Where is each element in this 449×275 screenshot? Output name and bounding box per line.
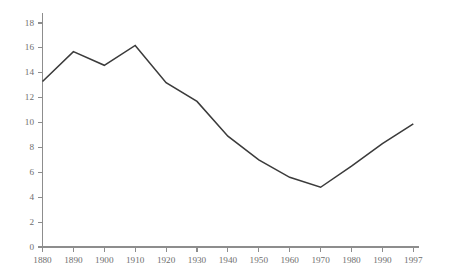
y-tick-label: 0: [29, 242, 34, 252]
y-tick-label: 2: [29, 217, 34, 227]
x-tick-label: 1900: [95, 255, 114, 265]
x-tick-label: 1990: [373, 255, 392, 265]
x-tick-label: 1970: [311, 255, 330, 265]
y-tick-label: 12: [25, 92, 35, 102]
x-tick-label: 1980: [342, 255, 361, 265]
x-tick-label: 1880: [33, 255, 52, 265]
x-axis-tick-labels: 1880189019001910192019301940195019601970…: [33, 255, 423, 265]
y-tick-label: 14: [25, 67, 35, 77]
data-series-line: [43, 45, 414, 187]
y-tick-label: 18: [25, 18, 35, 28]
y-axis-ticks: [38, 23, 43, 247]
line-chart: 024681012141618 188018901900191019201930…: [0, 0, 449, 275]
x-tick-label: 1950: [250, 255, 269, 265]
y-axis-tick-labels: 024681012141618: [25, 18, 35, 252]
x-tick-label: 1960: [281, 255, 300, 265]
y-tick-label: 6: [29, 167, 34, 177]
y-tick-label: 16: [25, 42, 35, 52]
data-series-group: [43, 45, 414, 187]
x-tick-label: 1930: [188, 255, 207, 265]
x-tick-label: 1940: [219, 255, 238, 265]
x-tick-label: 1910: [126, 255, 145, 265]
y-tick-label: 8: [29, 142, 34, 152]
x-tick-label: 1890: [64, 255, 83, 265]
y-tick-label: 4: [29, 192, 34, 202]
chart-plot-area: 024681012141618 188018901900191019201930…: [0, 0, 449, 275]
y-tick-label: 10: [25, 117, 35, 127]
x-tick-label: 1997: [404, 255, 423, 265]
x-tick-label: 1920: [157, 255, 176, 265]
x-axis-ticks: [43, 247, 414, 252]
